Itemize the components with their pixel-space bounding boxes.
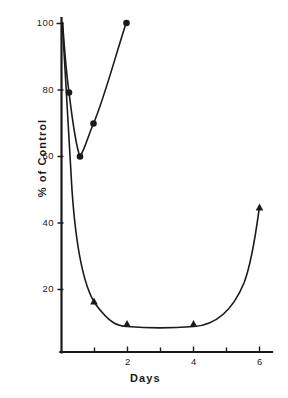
x-axis-title: Days (130, 372, 161, 384)
series-line-triangles (62, 23, 259, 328)
series-markers-triangles (90, 204, 263, 328)
data-point-circle (66, 89, 73, 96)
y-tick-label-20: 20 (24, 283, 54, 294)
data-point-circle (90, 120, 97, 127)
x-tick-label-4: 4 (184, 356, 204, 367)
data-point-triangle (123, 320, 131, 327)
y-tick-label-100: 100 (24, 17, 54, 28)
y-axis-title: % of Control (36, 108, 48, 208)
data-point-circle (77, 153, 84, 160)
data-point-triangle (190, 320, 198, 327)
y-tick-label-80: 80 (24, 84, 54, 95)
x-tick-label-6: 6 (250, 356, 270, 367)
data-point-triangle (256, 204, 264, 211)
y-tick-label-40: 40 (24, 217, 54, 228)
data-point-circle (123, 20, 130, 27)
x-tick-label-2: 2 (118, 356, 138, 367)
series-line-circles (63, 23, 126, 157)
